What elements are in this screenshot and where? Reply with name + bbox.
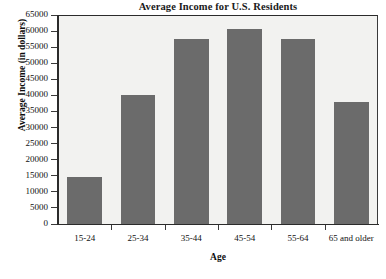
y-axis-tick bbox=[51, 159, 57, 160]
y-axis-tick-label: 25000 bbox=[4, 139, 48, 148]
y-axis-tick bbox=[51, 224, 57, 225]
y-axis-tick-label-wrap: 20000 bbox=[0, 155, 48, 164]
bar bbox=[121, 95, 155, 224]
y-axis-tick bbox=[51, 95, 57, 96]
y-axis-tick-label-wrap: 0 bbox=[0, 219, 48, 228]
y-axis-line bbox=[57, 15, 59, 225]
y-axis-tick bbox=[51, 47, 57, 48]
y-axis-tick-label: 45000 bbox=[4, 74, 48, 83]
y-axis-tick-label: 20000 bbox=[4, 155, 48, 164]
chart-container: Average Income for U.S. Residents Averag… bbox=[0, 0, 386, 279]
y-axis-tick-label-wrap: 5000 bbox=[0, 203, 48, 212]
x-axis-tick-label: 65 and older bbox=[325, 233, 378, 243]
y-axis-tick bbox=[51, 63, 57, 64]
chart-title: Average Income for U.S. Residents bbox=[58, 0, 378, 14]
y-axis-tick bbox=[51, 111, 57, 112]
bar bbox=[67, 177, 101, 224]
x-axis-title: Age bbox=[58, 252, 378, 262]
y-axis-tick-label: 50000 bbox=[4, 58, 48, 67]
y-axis-tick-label: 30000 bbox=[4, 123, 48, 132]
y-axis-tick-label: 40000 bbox=[4, 90, 48, 99]
y-axis-tick-label-wrap: 40000 bbox=[0, 90, 48, 99]
x-axis-tick bbox=[325, 225, 326, 230]
y-axis-tick bbox=[51, 31, 57, 32]
y-axis-tick-label: 10000 bbox=[4, 187, 48, 196]
x-axis-tick bbox=[111, 225, 112, 230]
y-axis-tick-label-wrap: 60000 bbox=[0, 26, 48, 35]
y-axis-tick bbox=[51, 79, 57, 80]
y-axis-tick bbox=[51, 15, 57, 16]
x-axis-tick-label: 55-64 bbox=[271, 233, 324, 243]
y-axis-tick-label-wrap: 30000 bbox=[0, 123, 48, 132]
x-axis-tick bbox=[218, 225, 219, 230]
x-axis-tick-label: 45-54 bbox=[218, 233, 271, 243]
bar bbox=[174, 39, 208, 224]
y-axis-tick-label-wrap: 65000 bbox=[0, 10, 48, 19]
plot-area bbox=[58, 15, 378, 224]
y-axis-tick-label: 0 bbox=[4, 219, 48, 228]
y-axis-tick bbox=[51, 207, 57, 208]
y-axis-tick-label-wrap: 10000 bbox=[0, 187, 48, 196]
y-axis-tick-label: 65000 bbox=[4, 10, 48, 19]
y-axis-tick-label-wrap: 35000 bbox=[0, 106, 48, 115]
x-axis-tick-label: 35-44 bbox=[165, 233, 218, 243]
y-axis-tick-label: 60000 bbox=[4, 26, 48, 35]
x-axis-tick-label: 15-24 bbox=[58, 233, 111, 243]
y-axis-tick-label-wrap: 45000 bbox=[0, 74, 48, 83]
y-axis-tick-label: 55000 bbox=[4, 42, 48, 51]
y-axis-tick bbox=[51, 127, 57, 128]
y-axis-tick-label: 5000 bbox=[4, 203, 48, 212]
y-axis-tick bbox=[51, 143, 57, 144]
y-axis-tick-label-wrap: 15000 bbox=[0, 171, 48, 180]
bar bbox=[334, 102, 368, 224]
x-axis-tick bbox=[165, 225, 166, 230]
y-axis-tick-label-wrap: 55000 bbox=[0, 42, 48, 51]
y-axis-tick-label-wrap: 50000 bbox=[0, 58, 48, 67]
bar bbox=[227, 29, 261, 224]
y-axis-tick-label: 15000 bbox=[4, 171, 48, 180]
x-axis-tick-label: 25-34 bbox=[111, 233, 164, 243]
x-axis-tick bbox=[271, 225, 272, 230]
y-axis-tick-label: 35000 bbox=[4, 106, 48, 115]
y-axis-tick-label-wrap: 25000 bbox=[0, 139, 48, 148]
y-axis-tick bbox=[51, 175, 57, 176]
bar bbox=[281, 39, 315, 224]
y-axis-tick bbox=[51, 191, 57, 192]
